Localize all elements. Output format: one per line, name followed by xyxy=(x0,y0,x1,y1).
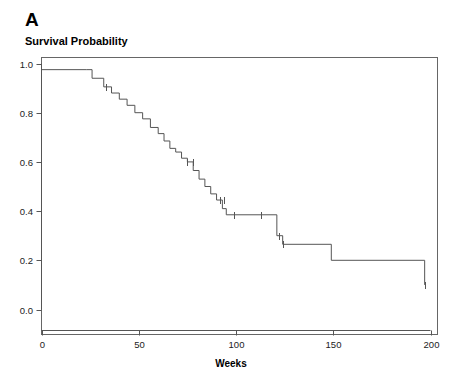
plot-frame xyxy=(42,58,438,335)
y-tick-label: 0.0 xyxy=(20,305,33,316)
x-tick-label: 100 xyxy=(229,339,245,350)
survival-plot: 0.00.20.40.60.81.0 050100150200 xyxy=(0,0,462,385)
y-axis-ticks: 0.00.20.40.60.81.0 xyxy=(20,59,42,316)
y-tick-label: 0.2 xyxy=(20,255,33,266)
y-tick-label: 1.0 xyxy=(20,59,33,70)
censoring-marks xyxy=(107,84,426,289)
x-tick-label: 50 xyxy=(134,339,145,350)
x-axis-title: Weeks xyxy=(0,358,462,369)
x-tick-label: 0 xyxy=(40,339,45,350)
x-axis-ticks: 050100150200 xyxy=(40,331,440,351)
survival-curve xyxy=(42,70,425,285)
figure-panel: A Survival Probability 0.00.20.40.60.81.… xyxy=(0,0,462,385)
y-tick-label: 0.6 xyxy=(20,157,33,168)
y-tick-label: 0.8 xyxy=(20,108,33,119)
x-tick-label: 150 xyxy=(326,339,342,350)
km-step-line xyxy=(42,70,425,285)
x-tick-label: 200 xyxy=(424,339,440,350)
y-tick-label: 0.4 xyxy=(20,206,33,217)
